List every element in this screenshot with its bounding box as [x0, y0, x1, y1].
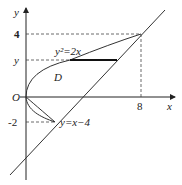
- tick-x8: 8: [137, 100, 143, 112]
- tick-y4: 4: [14, 28, 20, 40]
- origin-label: O: [12, 91, 20, 103]
- region-label: D: [53, 71, 62, 83]
- y-axis-label: y: [13, 6, 19, 18]
- x-axis-label: x: [166, 100, 172, 112]
- tick-yv: y: [13, 54, 19, 66]
- tick-ym2: -2: [8, 116, 17, 128]
- line-y-eq-x-minus-4: [10, 10, 165, 175]
- parabola-label: y²=2x: [54, 45, 81, 57]
- parabola-curve: [26, 34, 141, 122]
- integration-region-diagram: y x O 4 y -2 8 y²=2x y=x−4 D: [0, 0, 182, 185]
- line-label: y=x−4: [59, 116, 91, 128]
